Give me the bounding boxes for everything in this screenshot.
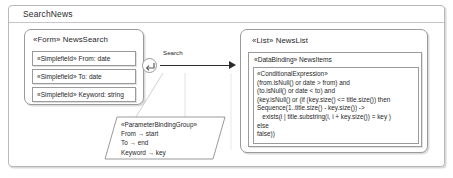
parameter-binding-group-note[interactable]: «ParameterBindingGroup» From → start To … (104, 116, 226, 160)
return-arrow-icon[interactable] (142, 58, 157, 73)
parameter-binding-group-text: «ParameterBindingGroup» From → start To … (121, 120, 197, 157)
association-line (160, 65, 232, 66)
form-field-from[interactable]: «Simplefield» From: date (32, 51, 136, 66)
form-node-newssearch[interactable]: «Form» NewsSearch «Simplefield» From: da… (24, 29, 144, 105)
form-field-keyword-label: «Simplefield» Keyword: string (37, 91, 124, 98)
package-title: SearchNews (23, 9, 73, 19)
conditional-expression-box[interactable]: «ConditionalExpression» (from.isNull() o… (253, 67, 419, 144)
databinding-label: «DataBinding» NewsItems (254, 56, 332, 63)
conditional-expression-text: «ConditionalExpression» (from.isNull() o… (257, 70, 416, 139)
diagram-canvas: SearchNews «Form» NewsSearch «Simplefiel… (0, 0, 453, 178)
list-node-newslist[interactable]: «List» NewsList «DataBinding» NewsItems … (240, 29, 428, 153)
form-field-from-label: «Simplefield» From: date (37, 55, 110, 62)
association-arrowhead-icon (229, 61, 236, 69)
form-field-to-label: «Simplefield» To: date (37, 73, 102, 80)
form-field-keyword[interactable]: «Simplefield» Keyword: string (32, 87, 136, 102)
association-label-search: Search (163, 49, 183, 56)
databinding-box[interactable]: «DataBinding» NewsItems «ConditionalExpr… (248, 52, 422, 147)
form-field-to[interactable]: «Simplefield» To: date (32, 69, 136, 84)
form-node-header: «Form» NewsSearch (33, 35, 108, 44)
package-title-bar (9, 6, 444, 23)
list-node-header: «List» NewsList (252, 36, 308, 45)
